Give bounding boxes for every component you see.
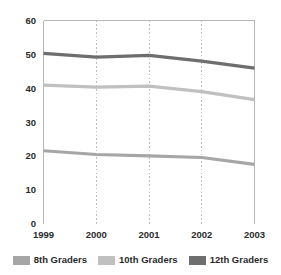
y-tick-label: 40 xyxy=(25,83,36,94)
x-tick-label: 2001 xyxy=(138,229,160,240)
legend-swatch-icon xyxy=(189,256,206,265)
x-tick-label: 2000 xyxy=(86,229,107,240)
legend-label: 10th Graders xyxy=(119,255,178,265)
x-tick-label: 1999 xyxy=(33,229,54,240)
y-tick-label: 10 xyxy=(25,184,36,195)
legend-item-8th-graders: 8th Graders xyxy=(13,255,87,265)
y-tick-label: 60 xyxy=(25,15,36,26)
line-chart: 60 50 40 30 20 10 0 1999 2000 2001 2002 … xyxy=(0,0,281,275)
chart-legend: 8th Graders 10th Graders 12th Graders xyxy=(0,248,281,272)
y-tick-label: 0 xyxy=(31,218,36,229)
y-tick-label: 50 xyxy=(25,49,36,60)
legend-item-10th-graders: 10th Graders xyxy=(98,255,178,265)
series-line-12th-graders xyxy=(44,53,255,68)
x-tick-label: 2002 xyxy=(191,229,212,240)
legend-swatch-icon xyxy=(98,256,115,265)
y-tick-label: 20 xyxy=(25,150,36,161)
x-tick-label: 2003 xyxy=(244,229,265,240)
legend-label: 12th Graders xyxy=(210,255,269,265)
legend-item-12th-graders: 12th Graders xyxy=(189,255,269,265)
y-tick-label: 30 xyxy=(25,117,36,128)
legend-swatch-icon xyxy=(13,256,30,265)
y-axis-tick-labels: 60 50 40 30 20 10 0 xyxy=(25,15,36,229)
plot-area: 60 50 40 30 20 10 0 1999 2000 2001 2002 … xyxy=(0,0,281,245)
legend-label: 8th Graders xyxy=(34,255,87,265)
x-axis-tick-labels: 1999 2000 2001 2002 2003 xyxy=(33,229,265,240)
